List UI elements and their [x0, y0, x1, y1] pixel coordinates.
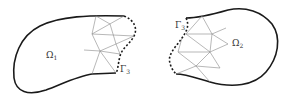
gamma-3-label-right: Γ3	[175, 20, 185, 31]
right-domain: Γ3 Ω2	[169, 9, 277, 85]
left-boundary	[14, 16, 124, 93]
domain-decomposition-diagram: Ω1 Γ3 Γ3 Ω2	[0, 0, 296, 104]
omega-2-label: Ω2	[232, 38, 243, 49]
gamma-3-label-left: Γ3	[120, 64, 130, 75]
left-domain: Ω1 Γ3	[14, 16, 136, 93]
right-boundary	[176, 9, 278, 85]
omega-1-label: Ω1	[46, 50, 57, 61]
